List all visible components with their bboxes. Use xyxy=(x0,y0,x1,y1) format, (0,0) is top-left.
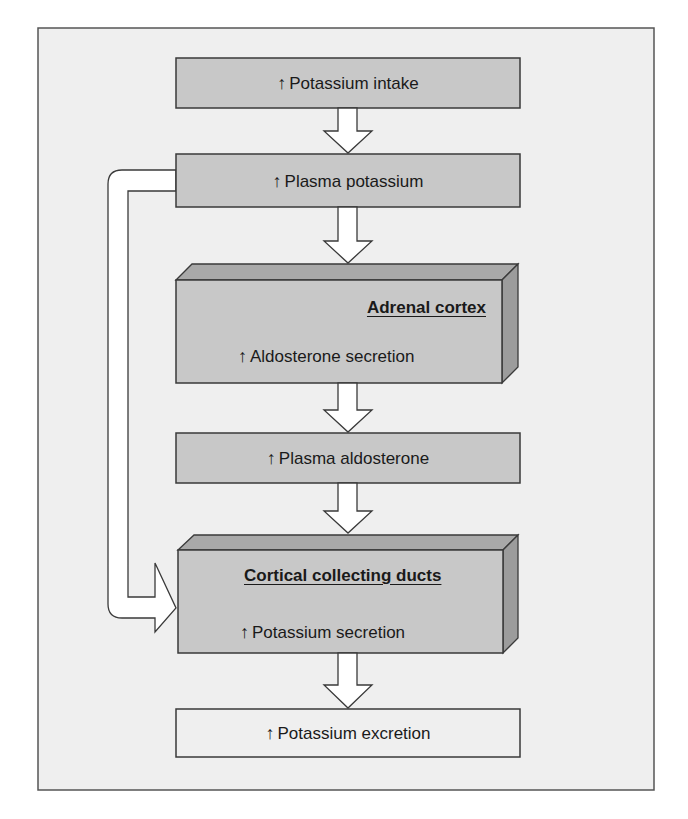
increase-arrow-icon: ↑ xyxy=(265,723,274,743)
node-label-aldosterone-secretion: ↑Aldosterone secretion xyxy=(238,346,414,367)
node-title-cortical-collecting-ducts: Cortical collecting ducts xyxy=(244,566,441,586)
node-label-plasma-potassium: ↑Plasma potassium xyxy=(176,171,520,192)
diagram-stage: ↑Potassium intake ↑Plasma potassium Adre… xyxy=(0,0,688,819)
node-label-plasma-aldosterone: ↑Plasma aldosterone xyxy=(176,448,520,469)
node-label-potassium-excretion: ↑Potassium excretion xyxy=(176,723,520,744)
diagram-canvas xyxy=(0,0,688,819)
increase-arrow-icon: ↑ xyxy=(277,73,286,93)
increase-arrow-icon: ↑ xyxy=(238,346,247,366)
increase-arrow-icon: ↑ xyxy=(267,448,276,468)
node-label-potassium-intake: ↑Potassium intake xyxy=(176,73,520,94)
increase-arrow-icon: ↑ xyxy=(273,171,282,191)
node-label-potassium-secretion: ↑Potassium secretion xyxy=(240,622,405,643)
node-title-adrenal-cortex: Adrenal cortex xyxy=(176,298,486,318)
increase-arrow-icon: ↑ xyxy=(240,622,249,642)
